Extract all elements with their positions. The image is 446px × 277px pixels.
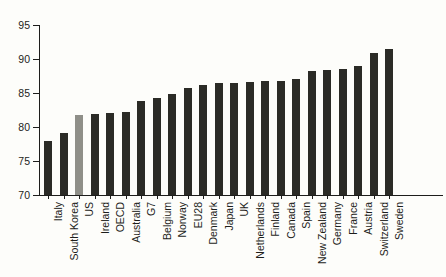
bar-slot bbox=[153, 0, 161, 196]
y-tick-95 bbox=[33, 25, 39, 26]
bar-slot bbox=[75, 0, 83, 196]
x-tick bbox=[79, 195, 80, 199]
x-tick bbox=[172, 195, 173, 199]
bar-australia bbox=[122, 112, 130, 195]
x-tick bbox=[110, 195, 111, 199]
x-tick bbox=[95, 195, 96, 199]
x-label-denmark: Denmark bbox=[208, 202, 219, 245]
bar-slot bbox=[230, 0, 238, 196]
x-tick bbox=[343, 195, 344, 199]
y-tick-90 bbox=[33, 59, 39, 60]
x-tick bbox=[296, 195, 297, 199]
x-label-eu28: EU28 bbox=[193, 202, 204, 228]
x-label-sweden: Sweden bbox=[394, 202, 405, 240]
x-label-uk: UK bbox=[239, 202, 250, 217]
x-tick bbox=[141, 195, 142, 199]
x-label-finland: Finland bbox=[270, 202, 281, 236]
bar-slot bbox=[184, 0, 192, 196]
bar-slot bbox=[246, 0, 254, 196]
bar-finland bbox=[261, 81, 269, 195]
y-tick-85 bbox=[33, 93, 39, 94]
bar-us bbox=[75, 115, 83, 195]
y-tick-70 bbox=[33, 195, 39, 196]
bar-slot bbox=[339, 0, 347, 196]
x-label-new-zealand: New Zealand bbox=[317, 202, 328, 264]
bar-slot bbox=[292, 0, 300, 196]
bar-canada bbox=[277, 81, 285, 195]
bar-slot bbox=[44, 0, 52, 196]
x-tick bbox=[219, 195, 220, 199]
bar-netherlands bbox=[246, 82, 254, 195]
x-tick bbox=[358, 195, 359, 199]
x-tick bbox=[203, 195, 204, 199]
bar-slot bbox=[277, 0, 285, 196]
bar-slot bbox=[137, 0, 145, 196]
x-tick bbox=[374, 195, 375, 199]
bar-slot bbox=[91, 0, 99, 196]
bar-series bbox=[40, 0, 443, 196]
bar-slot bbox=[385, 0, 393, 196]
x-tick bbox=[157, 195, 158, 199]
x-label-japan: Japan bbox=[224, 202, 235, 231]
bar-slot bbox=[199, 0, 207, 196]
x-label-france: France bbox=[348, 202, 359, 235]
bar-slot bbox=[60, 0, 68, 196]
x-tick bbox=[312, 195, 313, 199]
x-tick bbox=[126, 195, 127, 199]
y-tick-label-70: 70 bbox=[8, 190, 30, 201]
bar-slot bbox=[122, 0, 130, 196]
bar-japan bbox=[215, 83, 223, 195]
bar-eu28 bbox=[184, 88, 192, 195]
bar-oecd bbox=[106, 113, 114, 195]
bar-sweden bbox=[385, 49, 393, 195]
x-label-switzerland: Switzerland bbox=[379, 202, 390, 256]
bar-france bbox=[339, 69, 347, 195]
bar-slot bbox=[215, 0, 223, 196]
bar-belgium bbox=[153, 98, 161, 195]
bar-denmark bbox=[199, 85, 207, 195]
x-label-us: US bbox=[84, 202, 95, 217]
x-label-g7: G7 bbox=[146, 202, 157, 216]
y-tick-80 bbox=[33, 127, 39, 128]
bar-south-korea bbox=[60, 133, 68, 195]
bar-germany bbox=[323, 70, 331, 195]
x-label-oecd: OECD bbox=[115, 202, 126, 232]
bar-uk bbox=[230, 83, 238, 195]
x-tick bbox=[64, 195, 65, 199]
x-tick bbox=[250, 195, 251, 199]
bar-slot bbox=[106, 0, 114, 196]
x-label-australia: Australia bbox=[131, 202, 142, 243]
x-tick bbox=[234, 195, 235, 199]
bar-slot bbox=[261, 0, 269, 196]
bar-italy bbox=[44, 141, 52, 195]
x-tick bbox=[48, 195, 49, 199]
x-label-netherlands: Netherlands bbox=[255, 202, 266, 259]
bar-spain bbox=[292, 79, 300, 195]
x-label-ireland: Ireland bbox=[100, 202, 111, 234]
bar-slot bbox=[168, 0, 176, 196]
x-label-austria: Austria bbox=[363, 202, 374, 235]
bar-switzerland bbox=[370, 53, 378, 195]
bar-norway bbox=[168, 94, 176, 195]
y-tick-label-75: 75 bbox=[8, 156, 30, 167]
x-tick bbox=[327, 195, 328, 199]
bar-austria bbox=[354, 66, 362, 195]
bar-chart: 707580859095 ItalySouth KoreaUSIrelandOE… bbox=[0, 0, 446, 277]
x-label-south-korea: South Korea bbox=[69, 202, 80, 260]
x-label-italy: Italy bbox=[53, 202, 64, 221]
x-tick bbox=[389, 195, 390, 199]
bar-g7 bbox=[137, 101, 145, 195]
bar-slot bbox=[308, 0, 316, 196]
x-label-spain: Spain bbox=[301, 202, 312, 229]
x-label-canada: Canada bbox=[286, 202, 297, 239]
y-tick-label-85: 85 bbox=[8, 88, 30, 99]
y-tick-label-90: 90 bbox=[8, 54, 30, 65]
y-tick-label-95: 95 bbox=[8, 20, 30, 31]
y-tick-75 bbox=[33, 161, 39, 162]
x-tick bbox=[281, 195, 282, 199]
bar-slot bbox=[370, 0, 378, 196]
x-label-germany: Germany bbox=[332, 202, 343, 245]
bar-new-zealand bbox=[308, 71, 316, 195]
y-tick-label-80: 80 bbox=[8, 122, 30, 133]
x-tick bbox=[265, 195, 266, 199]
